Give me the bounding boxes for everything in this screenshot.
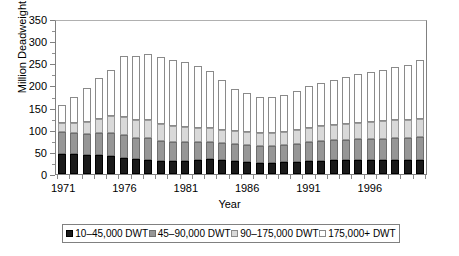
x-tick-mark	[253, 175, 254, 179]
legend-item[interactable]: 90–175,000 DWT	[231, 229, 318, 239]
x-tick-mark	[327, 175, 328, 179]
bar-segment	[280, 132, 288, 146]
legend-label: 175,000+ DWT	[328, 229, 396, 239]
bar-segment	[144, 138, 152, 160]
bar-segment	[218, 130, 226, 143]
bar-segment	[58, 154, 66, 174]
bar-column	[367, 72, 375, 174]
bar-segment	[268, 97, 276, 132]
bar-segment	[58, 123, 66, 132]
bar-column	[144, 54, 152, 174]
x-tick-mark	[57, 175, 58, 179]
bar-segment	[293, 91, 301, 130]
bar-segment	[391, 160, 399, 174]
y-tick-label: 50	[35, 147, 47, 158]
bar-column	[181, 62, 189, 174]
bar-segment	[194, 128, 202, 142]
bar-segment	[305, 142, 313, 161]
bar-segment	[354, 160, 362, 174]
x-axis-labels: 197119761981198619911996	[0, 182, 459, 196]
x-tick-mark	[290, 175, 291, 179]
bar-segment	[169, 126, 177, 142]
legend-item[interactable]: 45–90,000 DWT	[149, 229, 231, 239]
bar-column	[268, 97, 276, 174]
x-tick-mark	[266, 175, 267, 179]
bar-segment	[169, 161, 177, 174]
x-tick-mark	[69, 175, 70, 179]
x-tick-mark	[155, 175, 156, 179]
bar-segment	[194, 160, 202, 174]
bar-segment	[95, 133, 103, 155]
bar-segment	[83, 134, 91, 155]
bar-segment	[157, 141, 165, 161]
bar-segment	[280, 145, 288, 162]
bar-segment	[305, 86, 313, 127]
bar-segment	[144, 120, 152, 138]
bar-column	[58, 105, 66, 174]
x-axis-ticks	[55, 175, 427, 181]
bar-segment	[206, 128, 214, 142]
bar-segment	[95, 78, 103, 119]
bar-column	[280, 95, 288, 174]
bar-column	[231, 89, 239, 174]
bar-segment	[268, 163, 276, 175]
bar-segment	[231, 131, 239, 144]
bar-column	[70, 97, 78, 174]
bar-segment	[157, 57, 165, 124]
y-tick-label: 350	[29, 15, 47, 26]
bar-column	[317, 83, 325, 174]
bar-column	[416, 60, 424, 174]
bar-segment	[404, 160, 412, 174]
bar-segment	[218, 160, 226, 174]
bar-segment	[231, 161, 239, 174]
x-axis-title: Year	[0, 198, 459, 210]
x-tick-mark	[364, 175, 365, 179]
bar-segment	[120, 117, 128, 134]
bar-segment	[342, 160, 350, 174]
bar-column	[157, 57, 165, 174]
bar-segment	[354, 139, 362, 160]
bar-segment	[243, 162, 251, 174]
bar-segment	[354, 74, 362, 122]
x-tick-mark	[106, 175, 107, 179]
bar-segment	[391, 138, 399, 160]
bar-segment	[280, 162, 288, 174]
bar-segment	[144, 160, 152, 174]
bar-segment	[330, 160, 338, 174]
bar-segment	[342, 140, 350, 160]
bar-segment	[231, 144, 239, 161]
bar-column	[206, 71, 214, 174]
plot-area	[55, 20, 427, 175]
bar-segment	[293, 162, 301, 174]
y-tick-label: 250	[29, 59, 47, 70]
bar-column	[256, 97, 264, 174]
bar-segment	[342, 124, 350, 140]
x-tick-mark	[315, 175, 316, 179]
bar-column	[132, 56, 140, 174]
bar-segment	[144, 54, 152, 120]
bar-segment	[342, 77, 350, 124]
x-tick-mark	[388, 175, 389, 179]
x-tick-label: 1986	[235, 182, 259, 194]
bar-segment	[231, 89, 239, 131]
bar-segment	[391, 67, 399, 120]
bar-segment	[132, 138, 140, 160]
bar-segment	[70, 123, 78, 133]
legend-swatch-icon	[66, 230, 73, 237]
bar-segment	[416, 137, 424, 160]
bar-segment	[354, 123, 362, 139]
bar-segment	[83, 155, 91, 174]
legend-item[interactable]: 175,000+ DWT	[319, 229, 396, 239]
bar-segment	[181, 161, 189, 174]
bar-segment	[70, 154, 78, 174]
bar-segment	[107, 116, 115, 132]
bar-segment	[317, 83, 325, 126]
bar-segment	[379, 160, 387, 174]
bar-segment	[367, 72, 375, 122]
bar-segment	[305, 128, 313, 143]
bar-segment	[404, 65, 412, 120]
bar-segment	[317, 126, 325, 141]
bar-segment	[280, 95, 288, 132]
legend-swatch-icon	[231, 230, 238, 237]
legend-item[interactable]: 10–45,000 DWT	[66, 229, 148, 239]
